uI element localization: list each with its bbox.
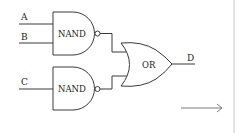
nand-gate-1-label: NAND (58, 29, 86, 39)
input-c: C (19, 77, 53, 89)
input-b: B (19, 32, 53, 43)
nand-gate-2-bubble (95, 87, 100, 92)
input-c-label: C (21, 77, 28, 87)
or-gate: OR (121, 43, 172, 87)
logic-circuit-diagram: A B NAND C NAND OR D (0, 0, 238, 133)
right-arrow-icon (181, 104, 222, 112)
input-a: A (19, 12, 53, 24)
nand-gate-1: NAND (53, 12, 100, 55)
or-gate-label: OR (142, 60, 156, 70)
output-d: D (172, 53, 195, 64)
input-b-label: B (21, 32, 28, 42)
output-d-label: D (187, 53, 194, 63)
nand-gate-2: NAND (53, 67, 100, 110)
input-a-label: A (20, 12, 28, 22)
nand-gate-2-label: NAND (58, 84, 86, 94)
nand-gate-1-bubble (95, 31, 100, 36)
